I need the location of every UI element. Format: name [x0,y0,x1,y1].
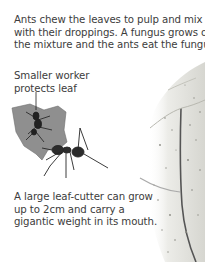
caption-line: protects leaf [14,83,89,96]
caption-line: Ants chew the leaves to pulp and mix it … [14,14,205,27]
caption-line: Smaller worker [14,70,89,83]
caption-line: the mixture and the ants eat the fungus. [14,39,205,52]
caption-smaller-worker: Smaller worker protects leaf [14,70,89,95]
caption-line: gigantic weight in its mouth. [14,216,157,229]
caption-large-leaf-cutter: A large leaf-cutter can grow up to 2cm a… [14,191,157,229]
caption-line: A large leaf-cutter can grow [14,191,157,204]
caption-fungus-farming: Ants chew the leaves to pulp and mix it … [14,14,205,52]
caption-line: up to 2cm and carry a [14,204,157,217]
caption-line: with their droppings. A fungus grows on [14,27,205,40]
